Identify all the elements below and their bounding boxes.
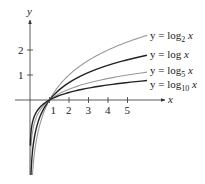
y-tick: 2 <box>18 44 33 56</box>
curve-label: y = log2 x <box>150 29 193 44</box>
log-graph: x y 12345 12 y = log2 xy = log xy = log5… <box>0 0 205 184</box>
y-tick-label: 2 <box>18 44 24 56</box>
x-tick-label: 3 <box>86 104 92 116</box>
curve-label: y = log x <box>150 48 189 60</box>
x-tick-label: 5 <box>125 104 131 116</box>
curve-label: y = log10 x <box>150 78 197 93</box>
curve-labels: y = log2 xy = log xy = log5 xy = log10 x <box>150 29 197 93</box>
y-ticks: 12 <box>18 44 33 81</box>
y-tick: 1 <box>18 69 33 81</box>
y-tick-label: 1 <box>18 69 24 81</box>
curve-3 <box>30 72 147 165</box>
x-tick-label: 2 <box>66 104 72 116</box>
curve-label: y = log5 x <box>150 64 193 79</box>
x-tick-label: 1 <box>51 104 57 116</box>
x-tick-label: 4 <box>105 104 111 116</box>
y-axis-label: y <box>26 5 32 17</box>
x-axis-label: x <box>167 93 173 105</box>
